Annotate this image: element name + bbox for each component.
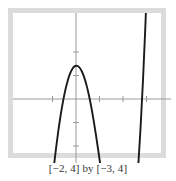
window-caption: [−2, 4] by [−3, 4] — [0, 161, 176, 175]
figure-container: [−2, 4] by [−3, 4] — [0, 0, 176, 181]
cubic-curve — [54, 13, 153, 163]
graph-canvas — [13, 13, 171, 163]
axes-group — [13, 13, 171, 163]
plot-frame — [8, 8, 166, 158]
